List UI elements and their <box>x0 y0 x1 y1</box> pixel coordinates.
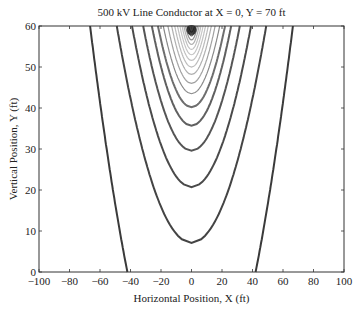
x-tick-label: −60 <box>91 275 109 287</box>
x-tick-label: 100 <box>336 275 353 287</box>
x-tick-label: −80 <box>61 275 79 287</box>
chart-title: 500 kV Line Conductor at X = 0, Y = 70 f… <box>98 6 286 18</box>
y-tick-label: 40 <box>25 102 37 114</box>
y-tick-label: 50 <box>25 61 37 73</box>
contour-line <box>90 26 127 272</box>
contour-chart: 500 kV Line Conductor at X = 0, Y = 70 f… <box>0 0 362 313</box>
x-tick-label: 80 <box>308 275 320 287</box>
contour-line <box>256 26 293 272</box>
x-tick-label: 20 <box>217 275 229 287</box>
y-tick-label: 0 <box>31 266 37 278</box>
x-tick-label: 40 <box>247 275 259 287</box>
y-tick-label: 60 <box>25 20 37 32</box>
y-tick-label: 10 <box>25 225 37 237</box>
y-axis-label: Vertical Position, Y (ft) <box>7 97 20 200</box>
x-tick-label: 0 <box>189 275 195 287</box>
x-axis-label: Horizontal Position, X (ft) <box>133 292 249 305</box>
x-tick-label: −40 <box>122 275 140 287</box>
contour-lines <box>90 25 293 272</box>
y-tick-label: 30 <box>25 143 37 155</box>
y-tick-label: 20 <box>25 184 37 196</box>
x-axis: −100−80−60−40−20020406080100 <box>28 26 353 287</box>
x-tick-label: −20 <box>152 275 170 287</box>
x-tick-label: 60 <box>278 275 290 287</box>
plot-frame <box>39 26 344 272</box>
